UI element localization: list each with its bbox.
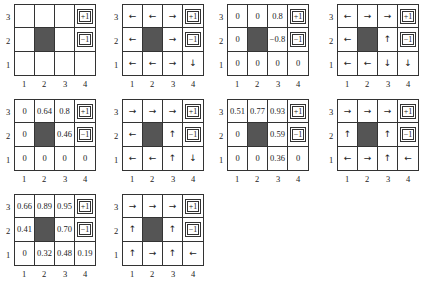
policy-cell: → [378, 5, 398, 28]
cell-value: 0 [275, 59, 279, 68]
policy-cell: ← [143, 5, 163, 28]
empty-cell [35, 5, 55, 28]
cell-value: 0.19 [78, 249, 93, 258]
empty-cell [55, 52, 75, 75]
row-label: 3 [327, 12, 335, 22]
cell-value: 0.70 [57, 225, 72, 234]
cell-value: 0.46 [57, 130, 72, 139]
row-label: 2 [112, 131, 120, 141]
column-label: 3 [55, 79, 75, 89]
arrow-right-icon: → [364, 12, 372, 21]
arrow-left-icon: ← [149, 59, 157, 68]
arrow-right-icon: → [169, 202, 177, 211]
row-label: 3 [112, 107, 120, 117]
column-label: 2 [34, 174, 54, 184]
value-cell: 0 [15, 147, 35, 170]
column-label: 3 [163, 79, 183, 89]
row-label: 2 [4, 131, 12, 141]
wall-cell [143, 123, 163, 146]
arrow-right-icon: → [169, 59, 177, 68]
arrow-up-icon: ↑ [169, 249, 177, 258]
empty-cell [15, 5, 35, 28]
cell-value: 0 [22, 130, 26, 139]
arrow-right-icon: → [149, 249, 157, 258]
row-label: 2 [217, 131, 225, 141]
cell-value: 0 [235, 12, 239, 21]
value-cell: 0.8 [55, 100, 75, 123]
reward-minus-one: −1 [187, 129, 200, 140]
reward-minus-one: −1 [292, 129, 305, 140]
arrow-right-icon: → [384, 107, 392, 116]
value-cell: 0 [15, 242, 35, 265]
column-label: 3 [268, 79, 288, 89]
value-cell: 0 [15, 100, 35, 123]
value-cell: 0.66 [15, 195, 35, 218]
grid: ←→→+1←↑−1←←↓↓ [337, 4, 419, 76]
grid: →→→+1↑↑−1↑→↑← [122, 194, 204, 266]
cell-value: 0.95 [57, 202, 72, 211]
wall-cell [248, 28, 268, 51]
column-label: 3 [163, 269, 183, 279]
cell-value: 0 [42, 154, 46, 163]
row-label: 2 [4, 36, 12, 46]
wall-cell [143, 218, 163, 241]
goal-cell: +1 [398, 100, 418, 123]
policy-cell: ↓ [398, 52, 418, 75]
policy-cell: → [123, 100, 143, 123]
policy-cell: → [143, 100, 163, 123]
arrow-right-icon: → [129, 107, 137, 116]
row-label: 1 [4, 60, 12, 70]
arrow-left-icon: ← [129, 35, 137, 44]
policy-cell: ↓ [183, 52, 203, 75]
arrow-up-icon: ↑ [169, 154, 177, 163]
arrow-right-icon: → [364, 107, 372, 116]
column-label: 2 [34, 269, 54, 279]
policy-cell: → [163, 195, 183, 218]
arrow-left-icon: ← [189, 249, 197, 258]
cell-value: 0.89 [37, 202, 52, 211]
wall-cell [143, 28, 163, 51]
pit-cell: −1 [288, 28, 308, 51]
value-cell: 0 [228, 147, 248, 170]
cell-value: 0.77 [250, 107, 265, 116]
gridworld-panel-5: 321123400.640.8+100.46−10000 [0, 95, 106, 190]
gridworld-panel-2: 3211234←←→+1←→−1←←→↓ [108, 0, 214, 95]
policy-cell: ← [143, 52, 163, 75]
value-cell: 0 [15, 123, 35, 146]
column-label: 1 [337, 79, 357, 89]
policy-cell: ↑ [378, 28, 398, 51]
column-label: 2 [247, 174, 267, 184]
value-cell: −0.8 [268, 28, 288, 51]
reward-minus-one: −1 [402, 34, 415, 45]
column-label: 4 [75, 79, 95, 89]
pit-cell: −1 [398, 123, 418, 146]
grid: +1−1 [14, 4, 96, 76]
value-cell: 0 [75, 147, 95, 170]
value-cell: 0.41 [15, 218, 35, 241]
grid: 00.640.8+100.46−10000 [14, 99, 96, 171]
column-label: 4 [75, 174, 95, 184]
reward-minus-one: −1 [187, 34, 200, 45]
arrow-left-icon: ← [129, 59, 137, 68]
value-cell: 0 [248, 52, 268, 75]
column-label: 1 [14, 174, 34, 184]
value-cell: 0.48 [55, 242, 75, 265]
arrow-up-icon: ↑ [344, 130, 352, 139]
policy-cell: → [378, 100, 398, 123]
column-label: 1 [337, 174, 357, 184]
reward-minus-one: −1 [187, 224, 200, 235]
goal-cell: +1 [183, 195, 203, 218]
arrow-left-icon: ← [149, 154, 157, 163]
policy-cell: ← [123, 123, 143, 146]
column-label: 4 [288, 79, 308, 89]
reward-plus-one: +1 [292, 106, 305, 117]
value-cell: 0.64 [35, 100, 55, 123]
column-label: 4 [183, 174, 203, 184]
cell-value: 0.48 [57, 249, 72, 258]
goal-cell: +1 [75, 100, 95, 123]
cell-value: 0 [255, 154, 259, 163]
column-label: 2 [34, 79, 54, 89]
cell-value: 0 [296, 154, 300, 163]
row-label: 3 [4, 12, 12, 22]
policy-cell: → [338, 100, 358, 123]
